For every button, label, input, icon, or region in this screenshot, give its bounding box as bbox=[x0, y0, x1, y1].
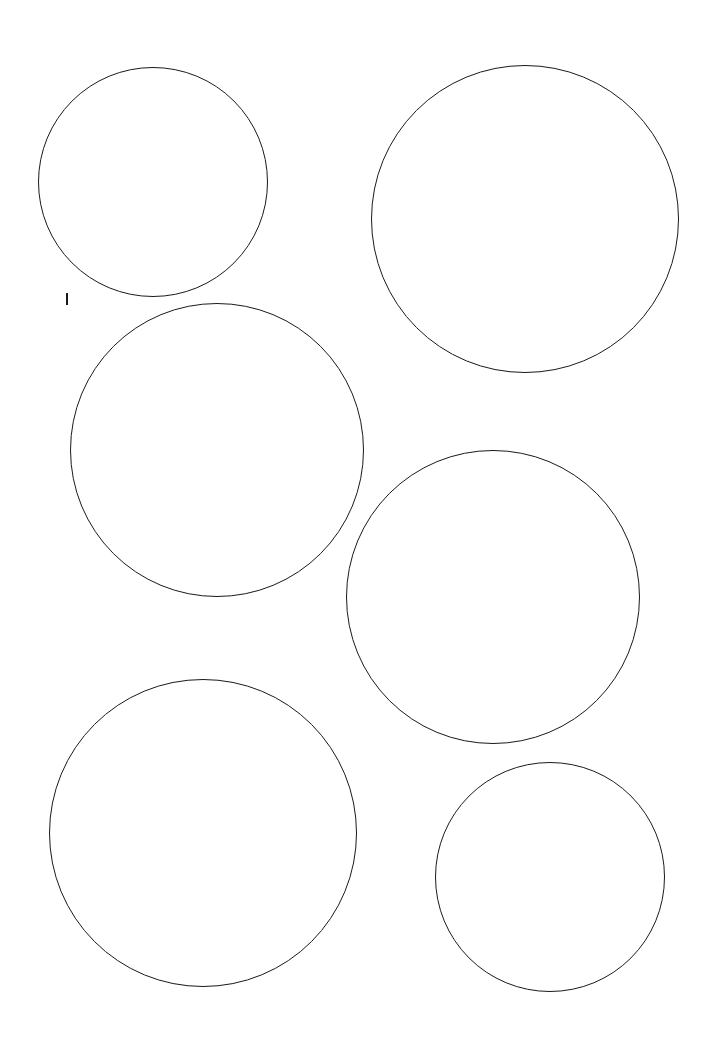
circle-4[interactable] bbox=[346, 450, 640, 744]
circle-1[interactable] bbox=[38, 67, 268, 297]
circle-5[interactable] bbox=[49, 679, 357, 987]
circle-3[interactable] bbox=[70, 303, 364, 597]
text-cursor-icon bbox=[66, 293, 68, 305]
circle-6[interactable] bbox=[435, 762, 665, 992]
drawing-canvas[interactable] bbox=[0, 0, 716, 1039]
circle-2[interactable] bbox=[371, 65, 679, 373]
